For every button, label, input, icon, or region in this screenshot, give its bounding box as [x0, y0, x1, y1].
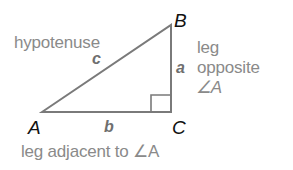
vertex-c-label: C	[172, 118, 186, 137]
leg-opposite-label-line2: opposite	[197, 59, 260, 76]
side-a-label: a	[176, 60, 185, 76]
leg-opposite-label-line1: leg	[197, 39, 219, 56]
side-c-label: c	[92, 51, 101, 67]
leg-adjacent-label: leg adjacent to ∠A	[21, 143, 159, 160]
vertex-a-label: A	[28, 118, 41, 137]
leg-opposite-label-line3: ∠A	[196, 79, 222, 96]
hypotenuse-label: hypotenuse	[14, 34, 100, 51]
right-angle-marker	[151, 95, 171, 112]
side-b-label: b	[104, 119, 114, 135]
vertex-b-label: B	[174, 11, 187, 30]
